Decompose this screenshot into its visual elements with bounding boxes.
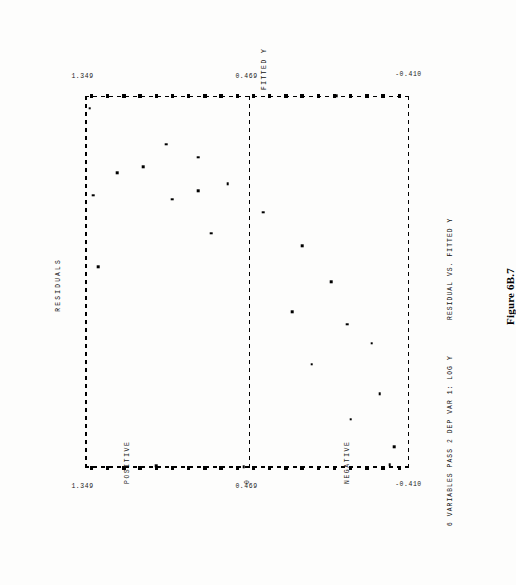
axis-tick-mark (268, 94, 271, 97)
axis-tick-mark (349, 94, 352, 97)
x-tick-label-max: 1.349 (71, 483, 93, 490)
data-point (116, 171, 119, 174)
data-point (291, 310, 294, 313)
run-description: 6 VARIABLES PASS 2 DEP VAR 1: LOG Y (447, 355, 454, 526)
axis-tick-mark (398, 466, 401, 469)
axis-tick-mark (252, 466, 255, 469)
x-axis-max-line (85, 96, 409, 98)
data-point (106, 94, 109, 97)
data-point (330, 280, 333, 283)
x-tick-label-mid-secondary: 0.469 (235, 73, 257, 80)
y-axis-title: RESIDUALS (55, 257, 62, 311)
rotated-printout-stage: 6 VARIABLES PASS 2 DEP VAR 1: LOG Y RESI… (43, 58, 473, 528)
x-tick-label-min-secondary: -0.410 (395, 71, 422, 78)
axis-tick-mark (171, 466, 174, 469)
axis-tick-mark (187, 94, 190, 97)
data-point (89, 107, 92, 110)
axis-tick-mark (187, 466, 190, 469)
axis-tick-mark (106, 466, 109, 469)
residual-region-zero: 0 (244, 478, 251, 483)
data-point (370, 341, 373, 344)
residual-region-negative: NEGATIVE (344, 440, 351, 483)
axis-tick-mark (90, 466, 93, 469)
data-point (242, 465, 245, 468)
data-point (226, 182, 229, 185)
figure-caption: Figure 6B.7 (504, 268, 516, 325)
axis-tick-mark (90, 94, 93, 97)
figure-page: 6 VARIABLES PASS 2 DEP VAR 1: LOG Y RESI… (0, 0, 516, 585)
axis-tick-mark (203, 466, 206, 469)
data-point (301, 244, 304, 247)
data-point (197, 189, 200, 192)
axis-tick-mark (171, 94, 174, 97)
scatter-plot-frame (85, 96, 409, 468)
plot-title: RESIDUAL VS. FITTED Y (447, 217, 454, 319)
zero-reference-line (249, 96, 251, 468)
x-tick-label-min: -0.410 (395, 481, 422, 488)
axis-tick-mark (381, 94, 384, 97)
axis-tick-mark (252, 94, 255, 97)
data-point (197, 155, 200, 158)
axis-tick-mark (365, 466, 368, 469)
data-point (165, 143, 168, 146)
axis-tick-mark (138, 94, 141, 97)
x-tick-label-max-secondary: 1.349 (71, 73, 93, 80)
axis-tick-mark (155, 94, 158, 97)
data-point (171, 198, 174, 201)
axis-tick-mark (317, 466, 320, 469)
axis-tick-mark (365, 94, 368, 97)
data-point (393, 445, 396, 448)
data-point (379, 392, 382, 395)
axis-tick-mark (122, 94, 125, 97)
x-axis-min-line (85, 466, 409, 468)
data-point (142, 165, 145, 168)
data-point (388, 463, 391, 466)
axis-tick-mark (300, 466, 303, 469)
data-point (335, 94, 338, 97)
data-point (97, 265, 100, 268)
axis-tick-mark (236, 94, 239, 97)
axis-tick-mark (284, 94, 287, 97)
data-point (346, 322, 349, 325)
axis-tick-mark (138, 466, 141, 469)
residual-region-positive: POSITIVE (124, 440, 131, 483)
axis-tick-mark (300, 94, 303, 97)
data-point (349, 418, 352, 421)
plot-top-spine (85, 96, 87, 468)
data-point (210, 231, 213, 234)
data-point (155, 464, 158, 467)
data-point (92, 193, 95, 196)
axis-tick-mark (219, 466, 222, 469)
axis-tick-mark (236, 466, 239, 469)
x-axis-title: FITTED Y (261, 47, 268, 89)
axis-tick-mark (268, 466, 271, 469)
data-point (262, 210, 265, 213)
data-point (311, 363, 314, 366)
axis-tick-mark (284, 466, 287, 469)
axis-tick-mark (398, 94, 401, 97)
axis-tick-mark (317, 94, 320, 97)
axis-tick-mark (219, 94, 222, 97)
axis-tick-mark (381, 466, 384, 469)
axis-tick-mark (203, 94, 206, 97)
axis-tick-mark (333, 466, 336, 469)
plot-bottom-spine (408, 96, 410, 468)
